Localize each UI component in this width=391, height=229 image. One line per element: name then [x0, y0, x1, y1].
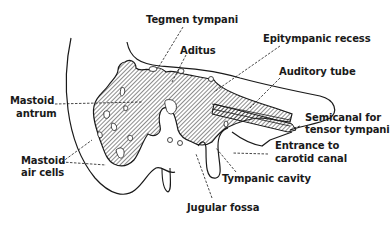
- label-mastoid-air-cells-line2: air cells: [21, 167, 64, 178]
- label-mastoid-air-cells-line1: Mastoid: [21, 155, 65, 166]
- label-mastoid-antrum-line1: Mastoid: [10, 95, 54, 106]
- label-aditus: Aditus: [180, 45, 216, 56]
- label-semicanal-line2: tensor tympani: [305, 124, 390, 135]
- ear-anatomy-diagram: Tegmen tympani Aditus Epitympanic recess…: [0, 0, 391, 229]
- label-jugular-fossa: Jugular fossa: [187, 202, 259, 213]
- label-tegmen-tympani: Tegmen tympani: [146, 14, 238, 25]
- label-entrance-carotid-line1: Entrance to: [275, 140, 339, 151]
- label-mastoid-antrum-line2: antrum: [16, 108, 57, 119]
- label-entrance-carotid-line2: carotid canal: [275, 153, 347, 164]
- label-tympanic-cavity: Tympanic cavity: [222, 173, 311, 184]
- label-semicanal-line1: Semicanal for: [305, 112, 381, 123]
- label-auditory-tube: Auditory tube: [279, 66, 356, 77]
- label-epitympanic-recess: Epitympanic recess: [263, 33, 371, 44]
